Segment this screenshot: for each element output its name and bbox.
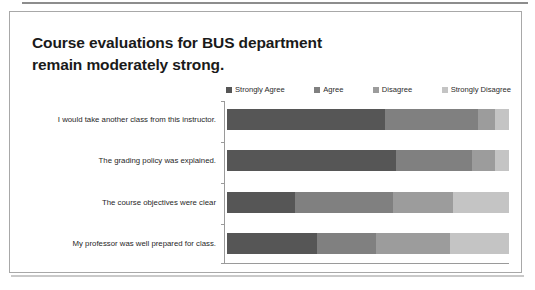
chart-legend: Strongly Agree Agree Disagree Strongly D…: [226, 84, 511, 96]
table-row: [227, 192, 509, 213]
bar-segment-agree: [385, 109, 478, 130]
slide-frame-shadow: [11, 275, 524, 277]
bar-segment-strongly-agree: [227, 150, 396, 171]
legend-swatch-icon-strongly-disagree: [442, 87, 448, 93]
legend-label-disagree: Disagree: [382, 86, 412, 94]
bar-segment-strongly-disagree: [495, 109, 509, 130]
legend-item-strongly-agree: Strongly Agree: [226, 86, 285, 94]
bar-segment-disagree: [472, 150, 495, 171]
y-axis-tick-4: [221, 263, 224, 264]
legend-label-strongly-agree: Strongly Agree: [235, 86, 285, 94]
category-label-2: The course objectives were clear: [18, 192, 216, 213]
y-axis-line: [224, 101, 225, 264]
bar-segment-strongly-agree: [227, 192, 295, 213]
bar-segment-strongly-agree: [227, 233, 317, 254]
category-label-1: The grading policy was explained.: [18, 150, 216, 171]
legend-label-strongly-disagree: Strongly Disagree: [451, 86, 511, 94]
category-label-3: My professor was well prepared for class…: [18, 233, 216, 254]
legend-swatch-icon-agree: [314, 87, 320, 93]
bar-segment-strongly-disagree: [450, 233, 509, 254]
category-axis-labels: I would take another class from this ins…: [18, 101, 220, 264]
slide-title: Course evaluations for BUS department re…: [32, 32, 452, 76]
slide-title-line-1: Course evaluations for BUS department: [32, 32, 452, 54]
y-axis-tick-0: [221, 101, 224, 102]
y-axis-tick-2: [221, 183, 224, 184]
table-row: [227, 233, 509, 254]
bar-segment-strongly-disagree: [453, 192, 509, 213]
legend-item-disagree: Disagree: [373, 86, 412, 94]
y-axis-tick-1: [221, 142, 224, 143]
table-row: [227, 150, 509, 171]
bars-layer: [227, 101, 509, 264]
bar-segment-strongly-agree: [227, 109, 385, 130]
y-axis-tick-3: [221, 224, 224, 225]
bar-segment-strongly-disagree: [495, 150, 509, 171]
table-row: [227, 109, 509, 130]
bar-segment-agree: [295, 192, 394, 213]
legend-swatch-icon-strongly-agree: [226, 87, 232, 93]
bar-segment-disagree: [376, 233, 449, 254]
bar-segment-agree: [396, 150, 472, 171]
bar-segment-agree: [317, 233, 376, 254]
legend-item-agree: Agree: [314, 86, 343, 94]
slide-title-line-2: remain moderately strong.: [32, 54, 452, 76]
chart-plot-area: [224, 101, 509, 264]
bar-segment-disagree: [393, 192, 452, 213]
bar-segment-disagree: [478, 109, 495, 130]
legend-item-strongly-disagree: Strongly Disagree: [442, 86, 511, 94]
legend-swatch-icon-disagree: [373, 87, 379, 93]
category-label-0: I would take another class from this ins…: [18, 109, 216, 130]
legend-label-agree: Agree: [323, 86, 343, 94]
slide-root: Course evaluations for BUS department re…: [0, 0, 535, 290]
top-divider-rule: [22, 2, 528, 4]
